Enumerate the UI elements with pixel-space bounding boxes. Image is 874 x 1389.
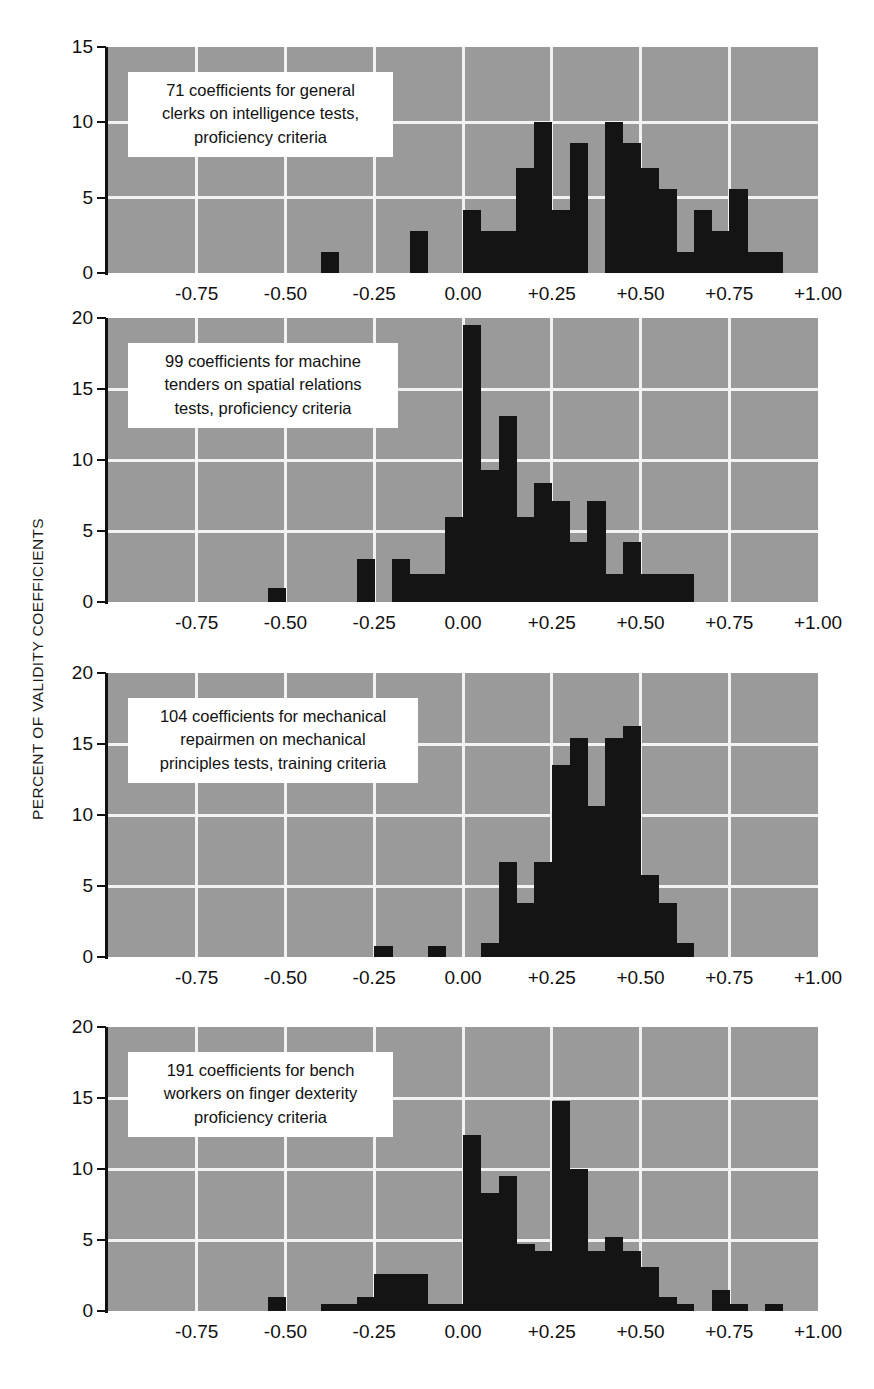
histogram-bar — [729, 189, 747, 273]
histogram-bar — [676, 1304, 694, 1311]
y-tick-label: 20 — [47, 1017, 93, 1036]
x-tick-label: +0.75 — [683, 613, 775, 632]
histogram-bar — [516, 903, 534, 957]
y-tick-label: 0 — [47, 947, 93, 966]
x-tick-label: +0.75 — [683, 284, 775, 303]
y-tick-mark — [97, 197, 106, 199]
histogram-bar — [658, 574, 676, 602]
y-tick-mark — [97, 272, 106, 274]
histogram-bar — [339, 1304, 357, 1311]
y-axis-label: PERCENT OF VALIDITY COEFFICIENTS — [29, 459, 47, 879]
histogram-bar — [552, 1101, 570, 1311]
histogram-bar — [392, 559, 410, 602]
histogram-bar — [534, 483, 552, 602]
y-tick-label: 15 — [47, 37, 93, 56]
histogram-bar — [268, 1297, 286, 1311]
y-tick-mark — [97, 388, 106, 390]
histogram-bar — [499, 862, 517, 957]
histogram-bar — [676, 574, 694, 602]
x-tick-label: -0.50 — [240, 1322, 332, 1341]
histogram-bar — [712, 1290, 730, 1311]
y-tick-label: 5 — [47, 188, 93, 207]
histogram-bar — [694, 210, 712, 273]
histogram-bar — [357, 1297, 375, 1311]
histogram-bar — [641, 1267, 659, 1311]
histogram-bar — [374, 1274, 392, 1311]
histogram-bar — [534, 122, 552, 273]
histogram-bar — [445, 517, 463, 602]
histogram-bar — [499, 231, 517, 273]
histogram-bar — [481, 1193, 499, 1311]
x-tick-label: -0.75 — [151, 613, 243, 632]
y-tick-label: 15 — [47, 1088, 93, 1107]
y-tick-label: 10 — [47, 805, 93, 824]
histogram-bar — [676, 943, 694, 957]
y-tick-mark — [97, 121, 106, 123]
x-tick-label: +1.00 — [772, 1322, 864, 1341]
histogram-bar — [481, 231, 499, 273]
y-tick-mark — [97, 814, 106, 816]
y-tick-label: 15 — [47, 379, 93, 398]
panel-callout-4: 191 coefficients for bench workers on fi… — [128, 1052, 393, 1137]
x-tick-label: +0.25 — [506, 284, 598, 303]
y-tick-mark — [97, 885, 106, 887]
gridline-horizontal — [108, 814, 818, 817]
histogram-bar — [623, 542, 641, 602]
y-axis-spine-3 — [105, 673, 108, 959]
panel-callout-2: 99 coefficients for machine tenders on s… — [128, 343, 398, 428]
histogram-bar — [765, 1304, 783, 1311]
histogram-bar — [765, 252, 783, 273]
histogram-bar — [587, 1251, 605, 1311]
histogram-bar — [641, 574, 659, 602]
y-tick-mark — [97, 1026, 106, 1028]
histogram-bar — [499, 1176, 517, 1311]
histogram-bar — [499, 416, 517, 602]
histogram-bar — [410, 231, 428, 273]
y-tick-mark — [97, 317, 106, 319]
panel-callout-1: 71 coefficients for general clerks on in… — [128, 72, 393, 157]
x-tick-label: -0.25 — [328, 613, 420, 632]
y-tick-mark — [97, 601, 106, 603]
y-axis-spine-1 — [105, 47, 108, 275]
histogram-bar — [658, 903, 676, 957]
histogram-bar — [428, 574, 446, 602]
histogram-bar — [463, 1135, 481, 1311]
y-tick-mark — [97, 956, 106, 958]
x-tick-label: +0.75 — [683, 968, 775, 987]
y-axis-spine-4 — [105, 1027, 108, 1313]
x-tick-label: +0.50 — [595, 284, 687, 303]
histogram-bar — [552, 501, 570, 602]
histogram-bar — [445, 1304, 463, 1311]
y-tick-label: 0 — [47, 592, 93, 611]
histogram-bar — [516, 517, 534, 602]
histogram-bar — [534, 862, 552, 957]
x-tick-label: 0.00 — [417, 968, 509, 987]
histogram-bar — [570, 143, 588, 273]
y-tick-mark — [97, 459, 106, 461]
histogram-bar — [587, 806, 605, 957]
histogram-bar — [623, 143, 641, 273]
y-tick-label: 5 — [47, 521, 93, 540]
histogram-bar — [321, 1304, 339, 1311]
y-tick-mark — [97, 743, 106, 745]
histogram-bar — [747, 252, 765, 273]
x-tick-label: -0.50 — [240, 613, 332, 632]
y-tick-mark — [97, 530, 106, 532]
y-tick-mark — [97, 1239, 106, 1241]
histogram-bar — [729, 1304, 747, 1311]
y-tick-mark — [97, 46, 106, 48]
x-tick-label: +1.00 — [772, 613, 864, 632]
histogram-bar — [428, 1304, 446, 1311]
y-tick-mark — [97, 1310, 106, 1312]
x-tick-label: -0.75 — [151, 968, 243, 987]
y-tick-label: 0 — [47, 1301, 93, 1320]
y-tick-mark — [97, 672, 106, 674]
histogram-bar — [410, 1274, 428, 1311]
histogram-bar — [481, 470, 499, 602]
histogram-bar — [268, 588, 286, 602]
x-tick-label: +1.00 — [772, 284, 864, 303]
x-tick-label: -0.25 — [328, 284, 420, 303]
histogram-bar — [321, 252, 339, 273]
histogram-bar — [552, 765, 570, 957]
x-tick-label: 0.00 — [417, 284, 509, 303]
